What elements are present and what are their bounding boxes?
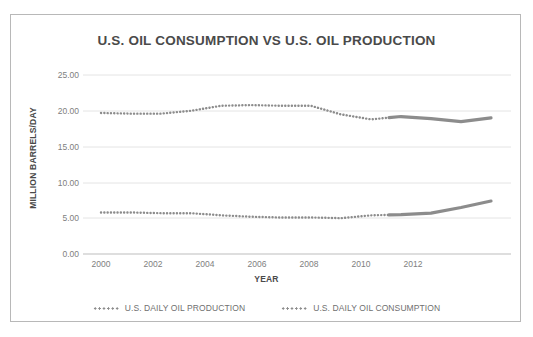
- series-line-solid-0: [389, 117, 491, 122]
- series-line-solid-1: [389, 201, 491, 215]
- dotted-line-icon: [93, 307, 119, 310]
- grid-lines: [83, 75, 511, 254]
- series-line-dotted-0: [101, 105, 389, 119]
- legend-item-production[interactable]: U.S. DAILY OIL PRODUCTION: [93, 303, 245, 313]
- legend-item-consumption[interactable]: U.S. DAILY OIL CONSUMPTION: [281, 303, 440, 313]
- dotted-line-icon: [281, 307, 307, 310]
- series-line-dotted-1: [101, 212, 389, 218]
- legend-label: U.S. DAILY OIL PRODUCTION: [125, 303, 245, 313]
- plot-area: [11, 15, 522, 323]
- chart-frame: U.S. OIL CONSUMPTION VS U.S. OIL PRODUCT…: [10, 14, 521, 322]
- data-series-group: [101, 105, 491, 218]
- legend-label: U.S. DAILY OIL CONSUMPTION: [313, 303, 440, 313]
- chart-legend: U.S. DAILY OIL PRODUCTION U.S. DAILY OIL…: [11, 303, 522, 313]
